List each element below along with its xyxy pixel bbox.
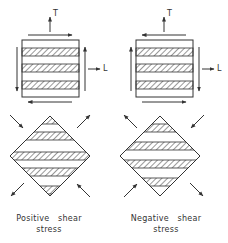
negative-element-square bbox=[136, 40, 193, 97]
positive-shear-panel bbox=[0, 17, 100, 197]
axis-T-label: T bbox=[167, 9, 172, 18]
shear-stress-diagram bbox=[0, 0, 228, 243]
axis-L-label: L bbox=[103, 64, 107, 73]
negative-element-diamond bbox=[110, 116, 210, 196]
principal-arrow-top-right-outward bbox=[77, 115, 90, 128]
positive-element-square bbox=[22, 40, 79, 97]
negative-shear-panel bbox=[110, 17, 214, 197]
axis-L-label: L bbox=[217, 64, 221, 73]
principal-arrow-top-right-inward bbox=[191, 115, 204, 128]
principal-arrow-top-left-outward bbox=[124, 115, 137, 128]
positive-shear-caption: Positive shear stress bbox=[4, 213, 94, 235]
principal-arrow-bottom-right-outward bbox=[190, 183, 203, 196]
caption-line: Negative shear bbox=[118, 213, 214, 224]
caption-line: stress bbox=[118, 224, 214, 235]
positive-element-diamond bbox=[0, 116, 100, 196]
negative-shear-caption: Negative shear stress bbox=[118, 213, 214, 235]
principal-arrow-bottom-left-inward bbox=[124, 184, 137, 197]
principal-arrow-bottom-right-inward bbox=[77, 184, 90, 197]
principal-arrow-top-left-inward bbox=[10, 115, 23, 128]
caption-line: Positive shear bbox=[4, 213, 94, 224]
caption-line: stress bbox=[4, 224, 94, 235]
axis-T-label: T bbox=[53, 9, 58, 18]
principal-arrow-bottom-left-outward bbox=[11, 183, 24, 196]
